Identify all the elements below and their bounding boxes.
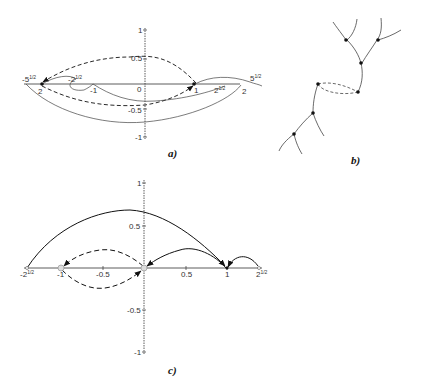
b-node (359, 61, 363, 65)
a-xtick-sqrt5: 51/2 (250, 73, 262, 83)
c-dashed-upper-arc (64, 250, 143, 266)
a-node-one (192, 82, 196, 86)
a-ytick-1: 1 (138, 26, 143, 35)
c-node-neg1 (58, 265, 64, 271)
c-caption: c) (168, 364, 177, 377)
panel-b (279, 18, 401, 154)
panel-c: 1 0.5 -0.5 -1 -21/2 -1 -0.5 0.5 1 21/2 c… (20, 179, 268, 377)
b-branch-3 (377, 18, 381, 40)
a-xtick-one: 1 (194, 86, 199, 95)
b-branch-8 (294, 113, 313, 134)
b-branch-4 (378, 30, 401, 40)
a-solid-curve-2 (26, 84, 241, 123)
a-xtick-two: 2 (242, 87, 247, 96)
a-ytick-m1: -1 (135, 133, 143, 142)
a-xtick-neg2: 2 (38, 87, 43, 96)
a-xtick-zero: 0 (137, 85, 142, 94)
b-node (292, 132, 296, 136)
b-branch-1 (333, 22, 346, 40)
c-xtick-neg-sqrt2: -21/2 (20, 269, 34, 279)
c-xtick-sqrt2: 21/2 (256, 269, 268, 279)
c-ytick-05: 0.5 (129, 222, 141, 231)
c-ytick-m1: -1 (134, 348, 142, 357)
c-solid-big-arc (27, 210, 225, 268)
a-xtick-neg1: -1 (90, 86, 98, 95)
b-node (376, 38, 380, 42)
a-ytick-05: 0.5 (131, 54, 143, 63)
b-node (344, 38, 348, 42)
b-branch-7 (313, 113, 324, 136)
b-node (311, 111, 315, 115)
c-node-one (226, 267, 229, 270)
b-branch-6 (362, 40, 377, 63)
figure-canvas: 1 0.5 -0.5 -1 -51/2 2 -21/2 -1 0 1 21/2 … (0, 0, 421, 387)
b-trunk-lower (313, 84, 318, 113)
c-node-zero (141, 265, 147, 271)
a-xtick-neg-sqrt5: -51/2 (22, 74, 36, 84)
c-solid-arc-1-to-0 (147, 249, 226, 268)
b-nodes (292, 38, 380, 136)
b-branch-5 (347, 40, 361, 63)
c-node-sqrt2 (258, 267, 261, 270)
a-dashed-upper-arc (43, 56, 196, 83)
c-solid-small-arc (228, 257, 258, 267)
c-xtick-05: 0.5 (181, 270, 193, 279)
b-dashed-loop-bottom (318, 84, 358, 94)
c-node-neg-sqrt2 (26, 267, 29, 270)
b-caption: b) (351, 154, 360, 167)
a-solid-curve-1 (93, 84, 225, 101)
c-xtick-one: 1 (225, 270, 230, 279)
c-ytick-1: 1 (137, 179, 142, 188)
b-branch-10 (294, 134, 302, 154)
c-ytick-m05: -0.5 (127, 306, 141, 315)
c-xtick-neg05: -0.5 (96, 270, 110, 279)
b-node (316, 82, 320, 86)
b-branch-9 (279, 134, 294, 151)
panel-a: 1 0.5 -0.5 -1 -51/2 2 -21/2 -1 0 1 21/2 … (22, 26, 262, 160)
a-ytick-m05: -0.5 (128, 106, 142, 115)
b-dashed-loop-top (318, 83, 358, 92)
a-xtick-neg-sqrt2: -21/2 (68, 74, 82, 84)
b-trunk-upper (358, 63, 362, 92)
a-caption: a) (168, 147, 177, 160)
a-node-neg2 (40, 82, 44, 86)
b-node (356, 90, 360, 94)
b-branch-2 (347, 19, 357, 40)
